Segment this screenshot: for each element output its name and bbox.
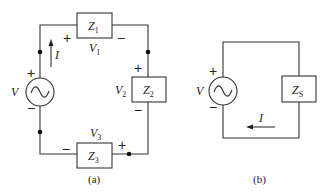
caption-b: (b) — [253, 173, 266, 186]
z2-minus: − — [134, 102, 142, 118]
junction-dot — [38, 50, 43, 55]
current-arrow-a — [49, 39, 54, 67]
v1-label: V1 — [89, 41, 100, 57]
z3-plus: + — [118, 137, 126, 153]
circuit-figure: + − V I Z1 + − V1 Z2 + − V2 Z3 − + V3 (a… — [0, 0, 332, 192]
source-minus-a: − — [27, 100, 35, 116]
source-plus-b: + — [209, 63, 217, 79]
arrow-up-icon — [49, 39, 54, 46]
junction-dot — [146, 50, 151, 55]
panel-b: + − V ZS I (b) — [196, 42, 316, 186]
z1-minus: − — [117, 30, 125, 46]
source-plus-a: + — [27, 65, 35, 81]
current-label-b: I — [258, 111, 264, 125]
source-label-a: V — [11, 85, 20, 99]
current-arrow-b — [246, 125, 275, 130]
junction-dot — [127, 152, 132, 157]
panel-a: + − V I Z1 + − V1 Z2 + − V2 Z3 − + V3 (a… — [11, 13, 166, 186]
junction-dot — [38, 130, 43, 135]
z3-minus: − — [62, 141, 70, 157]
source-label-b: V — [196, 84, 205, 98]
z2-plus: + — [134, 60, 142, 76]
v2-label: V2 — [115, 83, 126, 99]
source-minus-b: − — [209, 99, 217, 115]
caption-a: (a) — [88, 173, 101, 186]
arrow-left-icon — [246, 125, 253, 130]
z1-plus: + — [63, 30, 71, 46]
v3-label: V3 — [90, 126, 101, 142]
current-label-a: I — [54, 48, 60, 62]
